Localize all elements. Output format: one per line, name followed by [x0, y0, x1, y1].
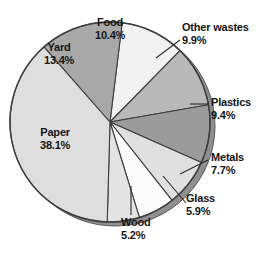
- slice-label-glass: Glass 5.9%: [186, 192, 215, 217]
- pie-chart-figure: Food 10.4% Yard 13.4% Paper 38.1% Other …: [0, 0, 263, 254]
- slice-label-wood-name: Wood: [121, 216, 151, 229]
- slice-label-paper-name: Paper: [40, 126, 70, 139]
- slice-label-other-wastes-value: 9.9%: [182, 34, 249, 47]
- slice-label-food-value: 10.4%: [95, 29, 125, 42]
- slice-label-glass-value: 5.9%: [186, 205, 215, 218]
- slice-label-wood: Wood 5.2%: [121, 216, 151, 241]
- slice-label-paper: Paper 38.1%: [40, 126, 70, 151]
- slice-label-paper-value: 38.1%: [40, 139, 70, 152]
- slice-label-plastics-name: Plastics: [211, 96, 251, 109]
- slice-label-plastics-value: 9.4%: [211, 109, 251, 122]
- slice-label-metals-name: Metals: [211, 151, 244, 164]
- slice-label-other-wastes: Other wastes 9.9%: [182, 21, 249, 46]
- slice-label-food: Food 10.4%: [95, 16, 125, 41]
- slice-label-metals-value: 7.7%: [211, 164, 244, 177]
- slice-label-other-wastes-name: Other wastes: [182, 21, 249, 34]
- slice-label-yard: Yard 13.4%: [44, 41, 74, 66]
- slice-label-metals: Metals 7.7%: [211, 151, 244, 176]
- slice-label-yard-value: 13.4%: [44, 54, 74, 67]
- slice-label-food-name: Food: [95, 16, 125, 29]
- slice-label-wood-value: 5.2%: [121, 229, 151, 242]
- slice-label-glass-name: Glass: [186, 192, 215, 205]
- slice-label-yard-name: Yard: [44, 41, 74, 54]
- pie-slices: [10, 22, 210, 222]
- slice-label-plastics: Plastics 9.4%: [211, 96, 251, 121]
